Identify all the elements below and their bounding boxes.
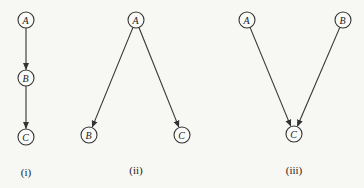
node-label: A [131, 15, 139, 26]
node-label: B [85, 130, 91, 141]
node-b: B [18, 70, 34, 86]
node-c: C [18, 129, 34, 145]
diagram-caption: (iii) [286, 164, 303, 177]
node-label: A [21, 15, 29, 26]
edge-a-to-c [139, 27, 179, 127]
diagram-1: ABC(i) [18, 12, 34, 179]
node-label: B [22, 73, 28, 84]
node-a: A [128, 12, 144, 28]
node-b: B [335, 12, 351, 28]
node-label: B [339, 15, 345, 26]
node-c: C [286, 126, 302, 142]
node-a: A [18, 12, 34, 28]
node-a: A [239, 12, 255, 28]
node-label: C [290, 129, 297, 140]
diagram-3: ABC(iii) [239, 12, 351, 177]
diagram-2: ABC(ii) [81, 12, 190, 177]
node-label: C [22, 132, 29, 143]
bayesian-network-diagrams: ABC(i)ABC(ii)ABC(iii) [0, 0, 364, 188]
diagram-caption: (i) [21, 166, 32, 179]
node-b: B [81, 127, 97, 143]
edge-a-to-b [92, 27, 133, 127]
edge-b-to-c [297, 27, 339, 126]
node-c: C [174, 127, 190, 143]
edge-a-to-c [250, 27, 291, 126]
node-label: A [242, 15, 250, 26]
diagram-caption: (ii) [129, 164, 143, 177]
diagram-canvas: ABC(i)ABC(ii)ABC(iii) [0, 0, 364, 188]
node-label: C [178, 130, 185, 141]
